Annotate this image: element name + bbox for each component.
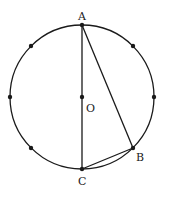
label-b: B bbox=[136, 151, 144, 164]
label-o: O bbox=[86, 102, 95, 115]
geometry-diagram: A O B C bbox=[0, 0, 173, 198]
point-a bbox=[80, 23, 84, 27]
point-left bbox=[8, 95, 12, 99]
point-upper-left bbox=[29, 44, 33, 48]
segment-ab bbox=[82, 25, 133, 148]
point-lower-left bbox=[29, 146, 33, 150]
point-o bbox=[80, 95, 84, 99]
point-b bbox=[131, 146, 135, 150]
point-right bbox=[152, 95, 156, 99]
label-a: A bbox=[77, 10, 87, 23]
point-upper-right bbox=[131, 44, 135, 48]
point-c bbox=[80, 167, 84, 171]
label-c: C bbox=[78, 175, 86, 188]
segment-bc bbox=[82, 148, 133, 169]
